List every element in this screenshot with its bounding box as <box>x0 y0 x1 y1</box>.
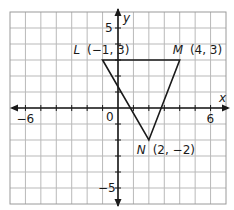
y-tick-label-neg5: −5 <box>98 181 116 195</box>
vertex-label-l: L (−1, 3) <box>74 43 130 57</box>
x-tick-label-neg6: −6 <box>16 112 34 126</box>
vertex-label-m: M (4, 3) <box>173 43 222 57</box>
x-axis-label: x <box>218 91 227 105</box>
y-axis-label: y <box>122 11 131 25</box>
axes <box>10 8 230 207</box>
triangle-lmn <box>103 60 180 140</box>
vertex-coords-l: (−1, 3) <box>87 43 129 57</box>
vertex-coords-n: (2, −2) <box>153 143 195 157</box>
y-tick-label-5: 5 <box>105 21 113 35</box>
y-axis-arrow-down-icon <box>115 199 122 207</box>
coordinate-plane: x y 0 −6 6 5 −5 L (−1, 3) M (4, 3) N (2,… <box>0 0 234 210</box>
vertex-label-n: N (2, −2) <box>137 143 195 157</box>
vertex-coords-m: (4, 3) <box>190 43 222 57</box>
origin-label: 0 <box>106 110 114 124</box>
x-tick-label-6: 6 <box>207 112 215 126</box>
vertex-name-n: N <box>137 143 146 157</box>
vertex-name-l: L <box>74 43 81 57</box>
vertex-name-m: M <box>173 43 184 57</box>
x-axis-arrow-left-icon <box>10 105 18 112</box>
